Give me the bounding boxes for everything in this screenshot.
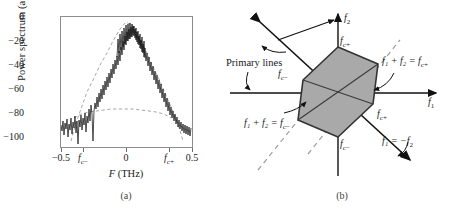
leader-primary-to-axis bbox=[246, 72, 250, 90]
vertex-label-bottom-fc-minus: fc− bbox=[340, 138, 350, 152]
y-tick-label-40: −40 bbox=[0, 59, 24, 70]
equation-lower-left-subscript: c− bbox=[283, 123, 290, 131]
y-tick-label-80: −80 bbox=[0, 107, 24, 118]
axis-f1-label: f1 bbox=[428, 96, 434, 110]
y-tick-label-0: 0 bbox=[0, 11, 24, 22]
equation-upper-right: f₁ + f₂ = fc+ bbox=[382, 55, 428, 69]
equation-lower-left-text: f₁ + f₂ = f bbox=[244, 117, 283, 128]
panel-b-frequency-plane: f2 f1 Primary lines fc+ fc− fc− fc+ f₁ +… bbox=[222, 0, 455, 212]
equation-upper-right-subscript: c+ bbox=[421, 61, 428, 69]
axis-f2-label: f2 bbox=[344, 12, 350, 26]
axis-f1-subscript: 1 bbox=[431, 102, 435, 110]
spectrum-plot-area bbox=[60, 16, 193, 148]
vertex-bottom-subscript: c− bbox=[343, 144, 350, 152]
leader-primary-to-diagonal bbox=[262, 46, 286, 52]
vertex-label-left-fc-minus: fc− bbox=[278, 68, 288, 82]
frequency-plane-svg bbox=[222, 0, 455, 188]
axis-f2-subscript: 2 bbox=[347, 18, 351, 26]
panel-a-power-spectrum: Power spectrum (a.u) 0 −20 −40 −60 −80 −… bbox=[0, 0, 220, 212]
y-tick-label-20: −20 bbox=[0, 35, 24, 46]
vertex-label-right-fc-plus: fc+ bbox=[377, 108, 387, 122]
equation-lower-left: f₁ + f₂ = fc− bbox=[244, 117, 290, 131]
equation-diagonal: f₁ = −f2 bbox=[382, 135, 413, 149]
x-tick-label-0.5: 0.5 bbox=[172, 152, 212, 163]
panel-b-caption: (b) bbox=[282, 190, 402, 201]
panel-a-caption: (a) bbox=[56, 190, 196, 201]
primary-lines-annotation: Primary lines bbox=[226, 57, 318, 68]
y-tick-label-60: −60 bbox=[0, 83, 24, 94]
vertex-right-subscript: c+ bbox=[380, 114, 387, 122]
figure-container: Power spectrum (a.u) 0 −20 −40 −60 −80 −… bbox=[0, 0, 455, 212]
vertex-label-top-fc-plus: fc+ bbox=[340, 35, 350, 49]
x-tick-label-0: 0 bbox=[106, 152, 146, 163]
vertex-left-subscript: c− bbox=[281, 74, 288, 82]
primary-direction-arrow bbox=[278, 20, 334, 40]
y-tick-label-100: −100 bbox=[0, 131, 24, 142]
fc-minus-subscript: c− bbox=[81, 158, 88, 166]
spectrum-svg bbox=[61, 17, 192, 147]
equation-diagonal-subscript: 2 bbox=[410, 141, 414, 149]
vertex-top-subscript: c+ bbox=[343, 41, 350, 49]
x-axis-label-symbol: F bbox=[109, 168, 115, 179]
equation-diagonal-text: f₁ = −f bbox=[382, 135, 410, 146]
x-tick-label-fc-minus: fc− bbox=[63, 152, 103, 166]
x-axis-label-unit: (THz) bbox=[118, 168, 144, 179]
x-axis-label: F (THz) bbox=[56, 168, 196, 179]
power-spectrum-trace bbox=[61, 26, 191, 144]
equation-upper-right-text: f₁ + f₂ = f bbox=[382, 55, 421, 66]
